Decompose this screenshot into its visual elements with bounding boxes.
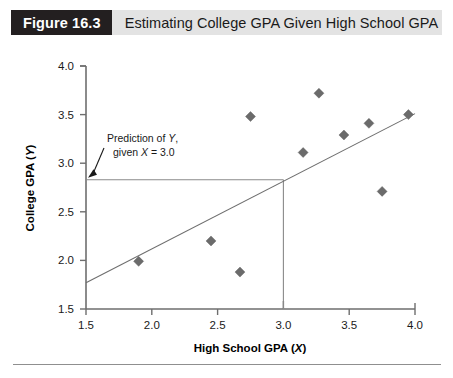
x-tick-label: 1.5 bbox=[78, 319, 94, 331]
data-point-marker bbox=[246, 112, 256, 122]
x-tick-label: 2.0 bbox=[144, 319, 160, 331]
variable-symbol: X bbox=[140, 146, 149, 158]
footer-divider bbox=[13, 364, 441, 365]
variable-symbol: Y bbox=[168, 132, 176, 144]
y-tick-label: 1.5 bbox=[58, 303, 74, 315]
data-point-marker bbox=[364, 118, 374, 128]
x-tick-label: 3.0 bbox=[275, 319, 291, 331]
y-tick-label: 4.0 bbox=[58, 60, 74, 72]
annotation-arrow-shaft bbox=[93, 148, 104, 174]
variable-symbol: Y bbox=[24, 147, 36, 156]
x-axis-title: High School GPA (X) bbox=[194, 342, 307, 354]
y-axis-title: College GPA (Y) bbox=[24, 144, 36, 231]
data-point-marker bbox=[314, 88, 324, 98]
prediction-annotation-arrow bbox=[88, 148, 104, 178]
figure-number-badge: Figure 16.3 bbox=[11, 10, 112, 35]
data-point-marker bbox=[235, 267, 245, 277]
x-tick-label: 2.5 bbox=[210, 319, 226, 331]
y-tick-label: 3.5 bbox=[58, 109, 74, 121]
x-tick-label: 4.0 bbox=[407, 319, 423, 331]
x-axis-ticks: 1.52.02.53.03.54.0 bbox=[78, 301, 423, 331]
x-tick-label: 3.5 bbox=[341, 319, 357, 331]
data-point-marker bbox=[403, 110, 413, 120]
scatter-plot-figure: 1.52.02.53.03.54.0 1.52.02.53.03.54.0 Pr… bbox=[0, 40, 453, 358]
y-tick-label: 2.5 bbox=[58, 206, 74, 218]
data-point-markers bbox=[134, 88, 414, 277]
prediction-annotation-line1: Prediction of Y, bbox=[107, 132, 178, 144]
axes-group bbox=[80, 66, 415, 309]
prediction-guides bbox=[86, 180, 283, 309]
y-axis-ticks: 1.52.02.53.03.54.0 bbox=[58, 60, 86, 315]
data-point-marker bbox=[298, 148, 308, 158]
data-point-marker bbox=[339, 130, 349, 140]
variable-symbol: X bbox=[294, 342, 304, 354]
chart-canvas: 1.52.02.53.03.54.0 1.52.02.53.03.54.0 Pr… bbox=[0, 40, 453, 358]
data-point-marker bbox=[377, 186, 387, 196]
y-tick-label: 2.0 bbox=[58, 254, 74, 266]
data-point-marker bbox=[206, 236, 216, 246]
figure-title: Estimating College GPA Given High School… bbox=[112, 10, 442, 35]
annotation-arrow-head bbox=[88, 169, 97, 178]
y-tick-label: 3.0 bbox=[58, 157, 74, 169]
figure-caption-bar: Figure 16.3 Estimating College GPA Given… bbox=[11, 10, 442, 35]
prediction-annotation-line2: given X = 3.0 bbox=[113, 146, 175, 158]
